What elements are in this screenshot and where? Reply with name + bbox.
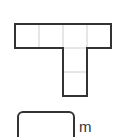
unit-label: m bbox=[79, 119, 92, 135]
answer-input-box[interactable] bbox=[17, 111, 75, 137]
t-shape-grid-figure bbox=[0, 0, 125, 100]
